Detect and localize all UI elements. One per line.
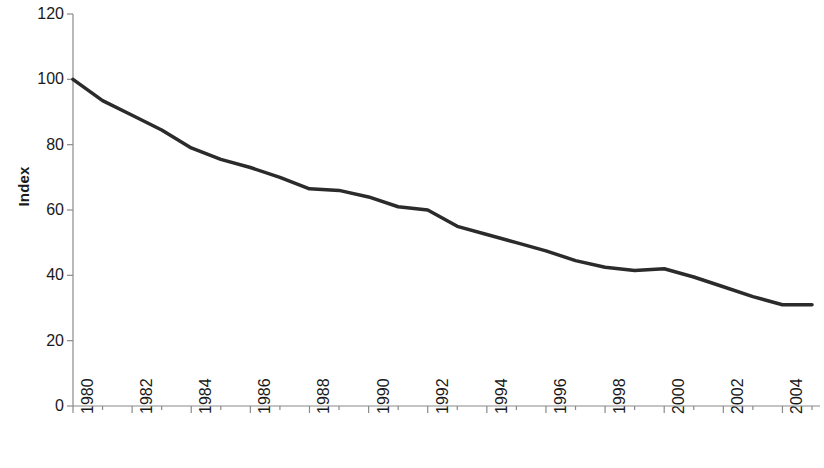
line-chart: Index 120100806040200 198019821984198619… [0,0,824,468]
plot-area [0,0,824,468]
axis-lines [73,14,820,406]
data-series-line [73,79,812,304]
x-axis-ticks [73,406,812,413]
y-axis-ticks [67,14,73,406]
